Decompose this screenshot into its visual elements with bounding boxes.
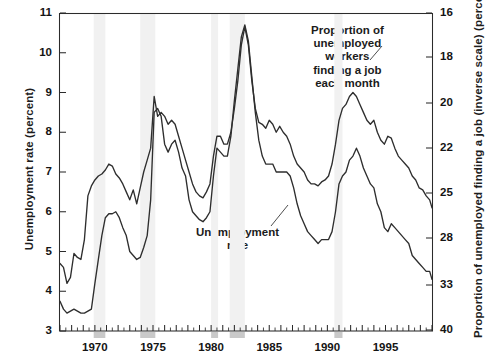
plot-svg: [0, 0, 495, 362]
y-axis-left-tick: 5: [26, 245, 52, 257]
y-axis-right-tick: 16: [440, 6, 468, 18]
series-line-proportion-finding-job: [60, 27, 432, 283]
recession-band-foot: [334, 332, 342, 338]
y-axis-left-tick: 7: [26, 165, 52, 177]
y-axis-left-tick: 6: [26, 205, 52, 217]
y-axis-left-tick: 8: [26, 125, 52, 137]
chart-figure: Unemployment rate (percent) Proportion o…: [0, 0, 495, 362]
recession-band-foot-markers: [94, 332, 343, 338]
y-axis-right-tick: 20: [440, 96, 468, 108]
x-axis-tick: 1970: [75, 341, 115, 353]
series-line-unemployment-rate: [60, 25, 432, 313]
recession-band-foot: [230, 332, 245, 338]
y-axis-left-tick: 9: [26, 86, 52, 98]
recession-band: [140, 14, 155, 331]
x-axis-tick: 1990: [307, 341, 347, 353]
recession-band: [334, 14, 342, 331]
recession-band-foot: [140, 332, 155, 338]
y-axis-right-tick: 18: [440, 50, 468, 62]
y-axis-right-tick: 33: [440, 278, 468, 290]
axis-ticks: [60, 13, 432, 331]
y-axis-right-tick: 22: [440, 141, 468, 153]
recession-band: [230, 14, 245, 331]
y-axis-right-tick: 40: [440, 323, 468, 335]
x-axis-tick: 1985: [249, 341, 289, 353]
recession-band-foot: [94, 332, 106, 338]
y-axis-left-tick: 3: [26, 324, 52, 336]
annotation-leader-proportion: [370, 46, 382, 60]
recession-bands: [94, 14, 343, 331]
y-axis-left-tick: 4: [26, 284, 52, 296]
x-axis-tick: 1995: [366, 341, 406, 353]
x-axis-tick: 1980: [191, 341, 231, 353]
y-axis-right-tick: 25: [440, 186, 468, 198]
y-axis-left-tick: 11: [26, 6, 52, 18]
y-axis-right-tick: 28: [440, 231, 468, 243]
y-axis-left-tick: 10: [26, 46, 52, 58]
annotation-leader-unemployment: [271, 205, 288, 226]
recession-band-foot: [211, 332, 218, 338]
x-axis-tick: 1975: [133, 341, 173, 353]
